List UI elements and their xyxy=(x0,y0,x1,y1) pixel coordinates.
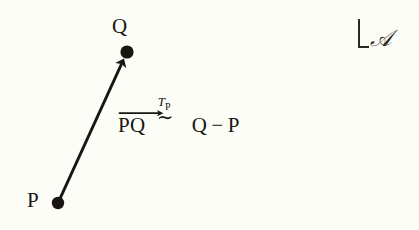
affine-space-symbol: 𝒜 xyxy=(370,27,392,50)
figure-canvas: P Q PQ TP ∼ Q−P 𝒜 xyxy=(0,0,419,230)
point-p-dot xyxy=(52,197,64,209)
tilde-icon: ∼ xyxy=(157,107,174,127)
relation-symbol-group: TP ∼ xyxy=(157,111,179,132)
equation-right-hand-side: Q−P xyxy=(192,115,240,136)
point-q-label: Q xyxy=(112,16,127,37)
equation: PQ TP ∼ Q−P xyxy=(118,108,240,136)
vector-pq-text: PQ xyxy=(118,115,146,136)
vector-pq-shaft xyxy=(58,64,122,203)
rhs-term-p: P xyxy=(228,113,240,137)
vector-pq-notation: PQ xyxy=(118,108,146,136)
frame-marker: 𝒜 xyxy=(358,14,392,48)
rhs-term-q: Q xyxy=(192,113,208,137)
corner-bracket-icon xyxy=(358,19,369,48)
point-q-dot xyxy=(120,45,133,58)
minus-operator: − xyxy=(207,113,227,137)
point-p-label: P xyxy=(27,190,39,211)
